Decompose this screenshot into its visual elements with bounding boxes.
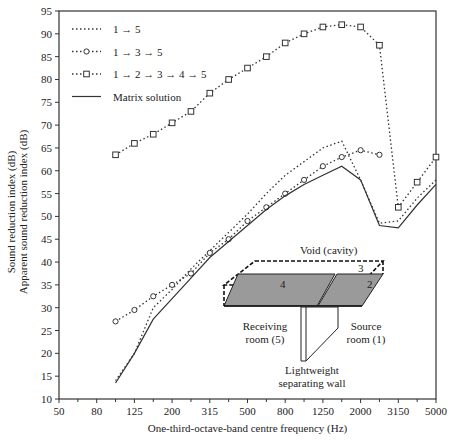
x-tick-label: 50: [54, 405, 66, 417]
y-tick-label: 25: [41, 325, 53, 337]
y-tick-label: 85: [41, 51, 53, 63]
y-tick-label: 40: [41, 256, 53, 268]
wall-label: separating wall: [279, 377, 346, 389]
circle-marker: [170, 282, 175, 287]
circle-marker: [358, 148, 363, 153]
circle-marker: [207, 250, 212, 255]
x-tick-label: 2000: [350, 405, 373, 417]
void-label: Void (cavity): [300, 244, 358, 257]
y-tick-label: 15: [41, 370, 53, 382]
y-tick-label: 70: [41, 119, 53, 131]
x-tick-label: 3150: [387, 405, 410, 417]
square-marker: [132, 141, 138, 147]
y-tick-label: 65: [41, 142, 53, 154]
x-tick-label: 200: [164, 405, 181, 417]
separating-wall: [301, 307, 306, 361]
chart: 1015202530354045505560657075808590955080…: [0, 0, 451, 443]
subsystem-2-label: 2: [367, 278, 373, 290]
source-room-label: room (1): [347, 333, 386, 346]
y-tick-label: 60: [41, 165, 53, 177]
wall-label: Lightweight: [285, 364, 339, 376]
y-tick-label: 50: [41, 210, 53, 222]
square-marker: [282, 40, 288, 46]
y-tick-label: 75: [41, 96, 53, 108]
y-tick-label: 90: [41, 28, 53, 40]
y-tick-label: 20: [41, 347, 53, 359]
receiving-room-label: room (5): [246, 333, 285, 346]
square-marker: [264, 54, 270, 60]
circle-marker: [132, 307, 137, 312]
square-marker: [358, 24, 364, 30]
series-line-2: [116, 25, 436, 208]
circle-marker: [339, 154, 344, 159]
square-marker: [377, 42, 383, 48]
square-marker: [84, 71, 90, 77]
x-tick-label: 125: [126, 405, 143, 417]
y-axis-label-line1: Sound reduction index (dB): [5, 107, 17, 317]
square-marker: [150, 131, 156, 137]
x-tick-label: 80: [91, 405, 103, 417]
y-axis-label: Sound reduction index (dB) Apparent soun…: [5, 107, 29, 317]
circle-marker: [245, 218, 250, 223]
y-axis-label-line2: Apparent sound reduction index (dB): [17, 107, 29, 317]
y-tick-label: 95: [41, 5, 53, 17]
square-marker: [433, 154, 439, 160]
y-tick-label: 10: [41, 393, 53, 405]
square-marker: [301, 31, 307, 37]
y-tick-label: 45: [41, 233, 53, 245]
circle-marker: [301, 177, 306, 182]
receiving-room-label: Receiving: [243, 320, 288, 332]
y-tick-label: 55: [41, 188, 53, 200]
circle-marker: [377, 152, 382, 157]
circle-marker: [84, 49, 89, 54]
circle-marker: [113, 319, 118, 324]
circle-marker: [320, 164, 325, 169]
legend-label: 1 → 5: [113, 23, 141, 35]
source-room-label: Source: [351, 320, 382, 332]
x-tick-label: 500: [239, 405, 256, 417]
x-axis-label: One-third-octave-band centre frequency (…: [148, 422, 348, 435]
x-tick-label: 5000: [425, 405, 448, 417]
square-marker: [245, 65, 251, 71]
square-marker: [320, 24, 326, 30]
square-marker: [207, 90, 213, 96]
circle-marker: [151, 294, 156, 299]
square-marker: [188, 109, 194, 115]
y-tick-label: 35: [41, 279, 53, 291]
square-marker: [339, 22, 345, 28]
square-marker: [113, 152, 119, 158]
y-tick-label: 30: [41, 302, 53, 314]
square-marker: [226, 77, 232, 83]
x-tick-label: 315: [202, 405, 219, 417]
square-marker: [396, 204, 402, 210]
square-marker: [169, 120, 175, 126]
square-marker: [414, 179, 420, 185]
subsystem-3-label: 3: [358, 262, 364, 274]
x-tick-label: 800: [277, 405, 294, 417]
inset-diagram: Void (cavity)423Receivingroom (5)Sourcer…: [224, 244, 386, 389]
legend-label: 1 → 2 → 3 → 4 → 5: [113, 68, 207, 80]
subsystem-4-label: 4: [280, 278, 286, 290]
legend-label: 1 → 3 → 5: [113, 46, 163, 58]
legend: 1 → 51 → 3 → 51 → 2 → 3 → 4 → 5Matrix so…: [72, 23, 207, 103]
x-tick-label: 1250: [312, 405, 335, 417]
y-tick-label: 80: [41, 73, 53, 85]
legend-label: Matrix solution: [113, 91, 182, 103]
